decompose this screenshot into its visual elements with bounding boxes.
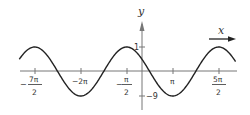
- x-axis-label: x: [218, 24, 225, 37]
- y-axis-label: y: [137, 5, 145, 18]
- svg-text:−: −: [116, 80, 123, 89]
- tick-label-neg-pi-over-2: − π 2: [116, 75, 132, 97]
- tick-label-5pi-over-2: 5π 2: [212, 75, 226, 97]
- y-tick-label-neg-9: −9: [146, 92, 158, 101]
- svg-text:2: 2: [124, 88, 129, 97]
- tick-label-neg-7pi-over-2: − 7π 2: [20, 75, 42, 97]
- y-axis-arrowhead-icon: [140, 21, 145, 31]
- svg-text:π: π: [124, 75, 129, 84]
- svg-text:2: 2: [216, 88, 221, 97]
- y-tick-label-1: 1: [134, 43, 139, 52]
- cosine-graph: y x − 7π 2 −2π − π 2 π 5π 2 1 −9: [0, 0, 250, 115]
- svg-text:7π: 7π: [29, 75, 39, 84]
- tick-label-pi: π: [170, 77, 175, 86]
- svg-text:−: −: [20, 80, 27, 89]
- svg-text:5π: 5π: [213, 75, 223, 84]
- x-arrowhead-icon: [228, 36, 236, 41]
- svg-text:2: 2: [32, 88, 37, 97]
- tick-label-neg-2pi: −2π: [72, 77, 88, 86]
